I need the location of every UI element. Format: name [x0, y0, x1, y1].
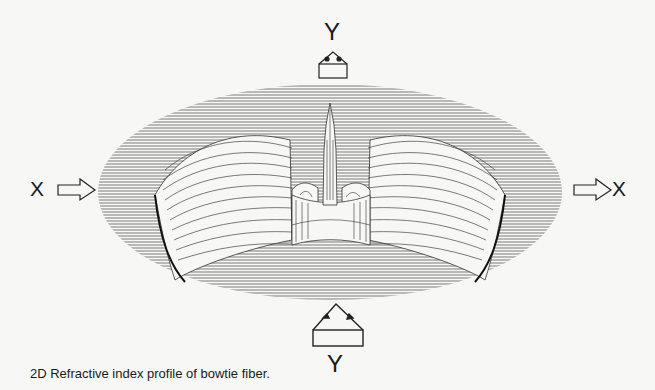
core-peak — [292, 103, 370, 245]
surface-plot — [0, 0, 655, 390]
y-arrow-top-icon — [319, 52, 347, 78]
x-arrow-left-icon — [58, 179, 95, 200]
x-arrow-right-icon — [574, 179, 611, 200]
y-arrow-bottom-icon — [313, 304, 363, 346]
